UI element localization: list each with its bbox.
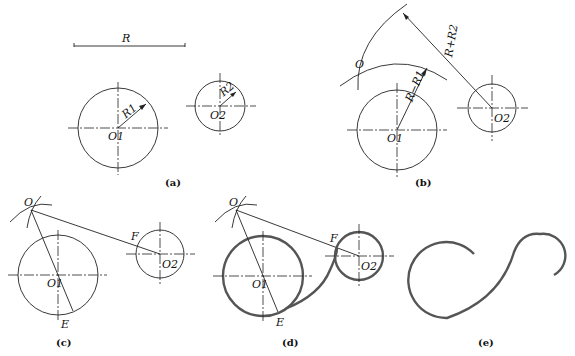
panel-b: O R−R1 O1 R+R2 O2 (b) <box>340 4 528 188</box>
label-o2: O2 <box>494 112 510 125</box>
caption-a: (a) <box>165 177 181 188</box>
label-o1: O1 <box>387 132 403 145</box>
panel-e: (e) <box>408 234 565 348</box>
tangent-arc-construction-figure: R R1 O1 R2 O2 (a) O <box>0 0 575 356</box>
label-o1: O1 <box>252 278 268 291</box>
label-r1: R1 <box>119 101 140 121</box>
caption-d: (d) <box>282 337 298 348</box>
label-r-plus-r2: R+R2 <box>442 23 461 59</box>
caption-c: (c) <box>56 337 72 348</box>
label-r: R <box>121 32 130 45</box>
caption-e: (e) <box>478 337 494 348</box>
arc-r-plus-r2 <box>358 4 407 90</box>
panel-c: O O1 E F O2 (c) <box>8 196 195 348</box>
label-f: F <box>130 230 139 243</box>
label-o: O <box>24 196 33 209</box>
label-f: F <box>329 232 338 245</box>
label-o2: O2 <box>361 260 377 273</box>
label-o: O <box>229 196 238 209</box>
label-o2: O2 <box>210 109 226 122</box>
result-s-curve <box>408 234 565 318</box>
radius-r-dimension: R <box>74 32 185 47</box>
label-r2: R2 <box>216 79 237 99</box>
label-o1: O1 <box>108 130 124 143</box>
label-r-minus-r1: R−R1 <box>402 69 427 105</box>
label-o1: O1 <box>47 277 63 290</box>
caption-b: (b) <box>415 177 431 188</box>
label-o2: O2 <box>162 258 178 271</box>
panel-a: R R1 O1 R2 O2 (a) <box>68 32 256 188</box>
label-o: O <box>355 58 364 71</box>
label-e: E <box>60 318 69 331</box>
label-e: E <box>275 316 284 329</box>
panel-d: O O1 E F O2 (d) <box>213 196 394 348</box>
circle-o1: R1 O1 <box>68 82 168 175</box>
circle-o2: R2 O2 <box>186 73 256 137</box>
